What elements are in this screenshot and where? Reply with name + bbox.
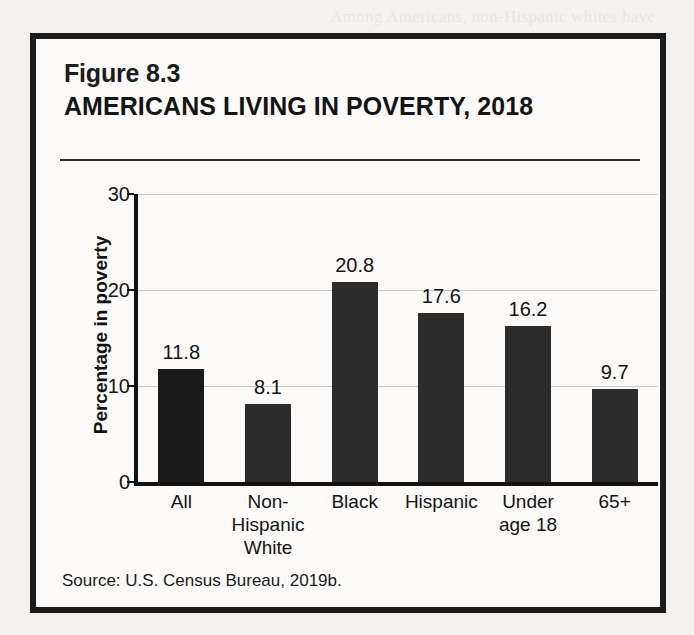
x-category-label: 65+ [560, 490, 670, 513]
x-axis-labels: AllNon-HispanicWhiteBlackHispanicUnderag… [138, 490, 658, 560]
title-divider [60, 159, 640, 161]
bar-value-label: 11.8 [163, 341, 200, 364]
bar-series: 11.88.120.817.616.29.7 [138, 194, 658, 482]
x-category-line: Hispanic [213, 513, 323, 536]
chart-area: Percentage in poverty 0102030 11.88.120.… [36, 174, 660, 564]
x-axis-line [134, 482, 658, 486]
y-tick-mark-30 [127, 193, 134, 195]
bar-4 [418, 313, 464, 482]
bar-slot: 17.6 [398, 194, 485, 482]
x-category-line: 65+ [560, 490, 670, 513]
bar-value-label: 17.6 [422, 285, 461, 308]
figure-box: Figure 8.3 AMERICANS LIVING IN POVERTY, … [30, 33, 666, 613]
plot-region: 0102030 11.88.120.817.616.29.7 [134, 194, 658, 482]
bar-2 [245, 404, 291, 482]
bar-1 [158, 369, 204, 482]
y-axis-label: Percentage in poverty [90, 210, 112, 460]
source-note: Source: U.S. Census Bureau, 2019b. [62, 571, 342, 591]
y-tick-label-10: 10 [70, 375, 130, 398]
bar-3 [332, 282, 378, 482]
bar-slot: 8.1 [225, 194, 312, 482]
y-tick-label-20: 20 [70, 279, 130, 302]
bar-value-label: 8.1 [254, 376, 282, 399]
y-tick-mark-20 [127, 289, 134, 291]
y-tick-mark-0 [127, 481, 134, 483]
x-category-line: age 18 [473, 513, 583, 536]
bar-slot: 11.8 [138, 194, 225, 482]
bar-5 [505, 326, 551, 482]
bar-value-label: 20.8 [335, 254, 374, 277]
figure-title: AMERICANS LIVING IN POVERTY, 2018 [64, 91, 533, 122]
y-tick-label-30: 30 [70, 183, 130, 206]
bar-6 [592, 389, 638, 482]
bar-slot: 20.8 [311, 194, 398, 482]
bar-value-label: 16.2 [509, 298, 548, 321]
y-tick-label-0: 0 [70, 471, 130, 494]
bar-value-label: 9.7 [601, 361, 629, 384]
bar-slot: 16.2 [485, 194, 572, 482]
x-category-line: White [213, 536, 323, 559]
bar-slot: 9.7 [571, 194, 658, 482]
figure-number: Figure 8.3 [64, 59, 180, 88]
y-tick-mark-10 [127, 385, 134, 387]
